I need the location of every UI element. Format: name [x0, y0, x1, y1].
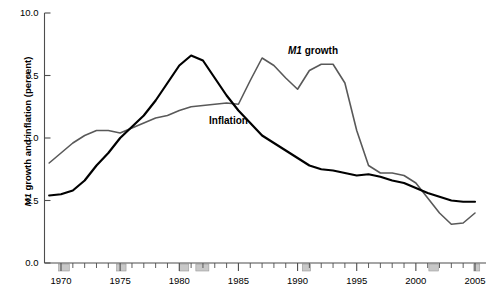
- chart-figure: M1 growth and inflation (percent) M1 gro…: [0, 0, 486, 291]
- recession-band: [117, 264, 126, 271]
- recession-band: [429, 264, 438, 271]
- y-tick-label: 10.0: [5, 7, 39, 18]
- y-ticks-group: [45, 13, 51, 263]
- recession-band: [59, 264, 70, 271]
- x-tick-label: 2000: [396, 275, 436, 286]
- chart-plot-area: [0, 0, 486, 291]
- y-tick-label: 2.5: [5, 195, 39, 206]
- y-tick-label: 0.0: [5, 257, 39, 268]
- recession-band: [179, 264, 188, 271]
- x-tick-label: 1975: [100, 275, 140, 286]
- recession-band: [196, 264, 209, 271]
- series-paths-group: [49, 56, 475, 225]
- x-tick-label: 1990: [278, 275, 318, 286]
- y-tick-label: 7.5: [5, 70, 39, 81]
- x-tick-label: 2005: [455, 275, 486, 286]
- recession-bands-group: [59, 264, 480, 271]
- y-tick-label: 5.0: [5, 132, 39, 143]
- series-line-m1-growth: [49, 58, 475, 224]
- x-tick-label: 1985: [218, 275, 258, 286]
- x-tick-label: 1995: [337, 275, 377, 286]
- x-tick-label: 1980: [159, 275, 199, 286]
- x-tick-label: 1970: [41, 275, 81, 286]
